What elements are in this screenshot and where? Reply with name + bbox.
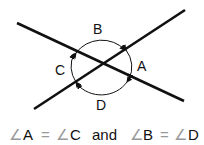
label-b: B <box>93 21 102 37</box>
caption-and: and <box>92 126 117 143</box>
label-a: A <box>137 58 147 74</box>
label-d: D <box>96 97 106 113</box>
equals-sign: = <box>41 126 50 143</box>
angle-icon: ∠ <box>174 126 187 143</box>
caption-d: D <box>188 126 199 143</box>
label-c: C <box>55 62 65 78</box>
caption-b: B <box>143 126 153 143</box>
angle-icon: ∠ <box>56 126 69 143</box>
vertical-angles-diagram: B A C D ∠ A = ∠ C and ∠ B = ∠ D <box>0 0 204 145</box>
angle-icon: ∠ <box>9 126 22 143</box>
caption-c: C <box>70 126 81 143</box>
angle-icon: ∠ <box>130 126 143 143</box>
angle-arcs <box>71 40 132 95</box>
caption-a: A <box>23 126 33 143</box>
caption: ∠ A = ∠ C and ∠ B = ∠ D <box>9 126 199 143</box>
equals-sign: = <box>160 126 169 143</box>
